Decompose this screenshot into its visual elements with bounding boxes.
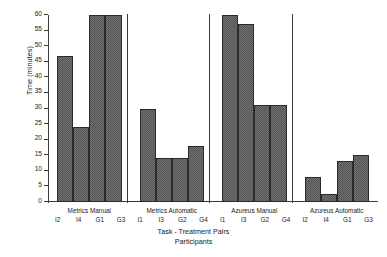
bar: [270, 105, 286, 202]
group-caption: Azureus AutomaticI2I4G1G3: [295, 207, 380, 224]
participant-label: I2: [295, 216, 316, 225]
bar: [57, 56, 73, 202]
y-axis-tick-label: 40: [35, 72, 42, 80]
y-axis-tick: 60: [44, 14, 48, 15]
participant-labels: I1I3G2G4: [130, 216, 215, 225]
group-separator: [292, 14, 293, 203]
y-axis-tick: 5: [44, 185, 48, 186]
y-axis-tick-label: 10: [35, 165, 42, 173]
bar: [156, 158, 172, 202]
group-caption: Metrics ManualI2I4G1G3: [47, 207, 132, 224]
bar-chart: Time (minutes) 051015202530354045505560 …: [0, 0, 387, 257]
bar: [188, 146, 204, 202]
group-separator: [209, 14, 210, 203]
y-axis-title: Time (minutes): [25, 0, 34, 146]
participant-label: G1: [89, 216, 110, 225]
y-axis-tick: 50: [44, 45, 48, 46]
participant-label: G2: [172, 216, 193, 225]
group-separator: [127, 14, 128, 203]
participant-label: I1: [212, 216, 233, 225]
y-axis-tick-label: 25: [35, 119, 42, 127]
participant-label: I4: [68, 216, 89, 225]
y-axis-tick: 0: [44, 201, 48, 202]
participant-labels: I1I3G2G4: [212, 216, 297, 225]
participant-label: G3: [110, 216, 131, 225]
y-axis-tick-label: 30: [35, 103, 42, 111]
participant-label: I3: [151, 216, 172, 225]
participant-labels: I2I4G1G3: [47, 216, 132, 225]
group-name: Azureus Manual: [212, 207, 297, 216]
group-name: Azureus Automatic: [295, 207, 380, 216]
group-name: Metrics Manual: [47, 207, 132, 216]
y-axis-tick: 20: [44, 139, 48, 140]
bar: [140, 109, 156, 203]
bar: [353, 155, 369, 202]
plot-area: 051015202530354045505560: [48, 15, 378, 202]
y-axis-tick: 15: [44, 154, 48, 155]
y-axis-tick-label: 0: [38, 197, 42, 205]
participant-labels: I2I4G1G3: [295, 216, 380, 225]
bar: [238, 24, 254, 202]
y-axis-tick: 40: [44, 76, 48, 77]
y-axis-tick-label: 50: [35, 41, 42, 49]
bar: [337, 161, 353, 202]
y-axis-tick: 45: [44, 61, 48, 62]
participant-label: G1: [337, 216, 358, 225]
bar: [172, 158, 188, 202]
y-axis-tick: 35: [44, 92, 48, 93]
group-name: Metrics Automatic: [130, 207, 215, 216]
participant-label: G2: [254, 216, 275, 225]
participant-label: I3: [233, 216, 254, 225]
y-axis-tick-label: 20: [35, 134, 42, 142]
bar: [105, 15, 121, 202]
participant-label: G4: [193, 216, 214, 225]
y-axis-tick-label: 60: [35, 10, 42, 18]
participant-label: I1: [130, 216, 151, 225]
bar: [254, 105, 270, 202]
x-axis-title-line2: Participants: [0, 237, 387, 247]
y-axis-tick-label: 5: [38, 181, 42, 189]
y-axis-tick-label: 45: [35, 56, 42, 64]
participant-label: G4: [275, 216, 296, 225]
bar: [222, 15, 238, 202]
y-axis-tick: 55: [44, 30, 48, 31]
bar: [89, 15, 105, 202]
y-axis-tick: 25: [44, 123, 48, 124]
y-axis-tick: 30: [44, 108, 48, 109]
group-caption: Azureus ManualI1I3G2G4: [212, 207, 297, 224]
participant-label: I4: [316, 216, 337, 225]
y-axis-tick-label: 15: [35, 150, 42, 158]
bar: [305, 177, 321, 202]
y-axis-tick-label: 35: [35, 87, 42, 95]
x-axis-title-line1: Task - Treatment Pairs: [0, 227, 387, 237]
y-axis-tick-label: 55: [35, 25, 42, 33]
y-axis-line: [48, 15, 49, 203]
group-caption: Metrics AutomaticI1I3G2G4: [130, 207, 215, 224]
bar: [321, 194, 337, 202]
y-axis-tick: 10: [44, 170, 48, 171]
bar: [73, 127, 89, 202]
participant-label: I2: [47, 216, 68, 225]
participant-label: G3: [358, 216, 379, 225]
